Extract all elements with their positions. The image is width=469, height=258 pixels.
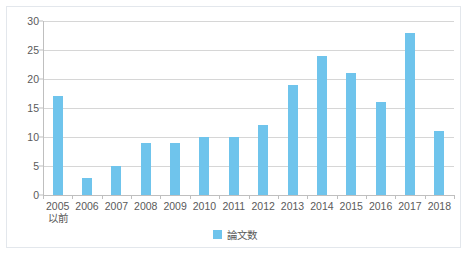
y-axis-tick-label: 15 xyxy=(11,102,39,114)
bar[interactable] xyxy=(376,102,386,195)
x-axis-tick xyxy=(72,195,73,199)
bar[interactable] xyxy=(199,137,209,195)
bar[interactable] xyxy=(229,137,239,195)
x-axis-tick-label: 2008 xyxy=(134,200,157,212)
legend-label: 論文数 xyxy=(227,227,257,242)
bar-slot xyxy=(395,21,424,195)
bar-slot xyxy=(307,21,336,195)
y-axis-tick-label: 20 xyxy=(11,73,39,85)
x-axis-tick xyxy=(249,195,250,199)
x-axis-tick-label: 2010 xyxy=(193,200,216,212)
bar-slot xyxy=(366,21,395,195)
bar-slot xyxy=(72,21,101,195)
x-axis-tick xyxy=(160,195,161,199)
x-axis-tick-label: 2009 xyxy=(163,200,186,212)
x-axis-tick xyxy=(395,195,396,199)
y-axis-tick-label: 10 xyxy=(11,131,39,143)
bar[interactable] xyxy=(434,131,444,195)
x-axis-tick xyxy=(366,195,367,199)
x-axis-tick-label: 2011 xyxy=(223,200,246,212)
bar[interactable] xyxy=(170,143,180,195)
x-axis-tick xyxy=(337,195,338,199)
x-axis-tick-label: 2014 xyxy=(310,200,333,212)
x-axis-tick-label: 2005以前 xyxy=(46,200,69,224)
x-axis-tick xyxy=(131,195,132,199)
bar-slot xyxy=(102,21,131,195)
x-axis-tick xyxy=(43,195,44,199)
bar-slot xyxy=(425,21,454,195)
bar[interactable] xyxy=(141,143,151,195)
bar-slot xyxy=(43,21,72,195)
bar[interactable] xyxy=(111,166,121,195)
bar-slot xyxy=(190,21,219,195)
x-axis-tick-label: 2017 xyxy=(398,200,421,212)
bar[interactable] xyxy=(405,33,415,195)
y-axis-tick-label: 0 xyxy=(11,189,39,201)
bar-slot xyxy=(278,21,307,195)
x-axis-tick-label: 2012 xyxy=(251,200,274,212)
bar-slot xyxy=(160,21,189,195)
chart-container: 051015202530 2005以前200620072008200920102… xyxy=(6,6,461,248)
bar-slot xyxy=(337,21,366,195)
x-axis-tick xyxy=(454,195,455,199)
x-axis-tick-label: 2016 xyxy=(369,200,392,212)
bar[interactable] xyxy=(317,56,327,195)
bar[interactable] xyxy=(82,178,92,195)
x-axis-tick xyxy=(425,195,426,199)
bar-slot xyxy=(249,21,278,195)
x-axis-tick xyxy=(190,195,191,199)
bar[interactable] xyxy=(53,96,63,195)
y-axis: 051015202530 xyxy=(7,21,39,195)
y-axis-tick-label: 25 xyxy=(11,44,39,56)
x-axis-tick-label: 2015 xyxy=(340,200,363,212)
bar[interactable] xyxy=(346,73,356,195)
bar-slot xyxy=(219,21,248,195)
x-axis-tick xyxy=(278,195,279,199)
chart-legend: 論文数 xyxy=(7,227,462,242)
x-axis-tick xyxy=(307,195,308,199)
x-axis-tick-label: 2013 xyxy=(281,200,304,212)
x-axis-tick-label: 2007 xyxy=(105,200,128,212)
x-axis-tick xyxy=(219,195,220,199)
x-axis-tick-label: 2018 xyxy=(428,200,451,212)
bar[interactable] xyxy=(288,85,298,195)
legend-swatch-icon xyxy=(213,230,222,239)
bar-slot xyxy=(131,21,160,195)
bar-series-group xyxy=(43,21,454,195)
y-axis-tick-label: 30 xyxy=(11,15,39,27)
y-axis-tick-label: 5 xyxy=(11,160,39,172)
bar[interactable] xyxy=(258,125,268,195)
x-axis: 2005以前2006200720082009201020112012201320… xyxy=(43,195,454,229)
x-axis-tick xyxy=(102,195,103,199)
x-axis-tick-label: 2006 xyxy=(75,200,98,212)
